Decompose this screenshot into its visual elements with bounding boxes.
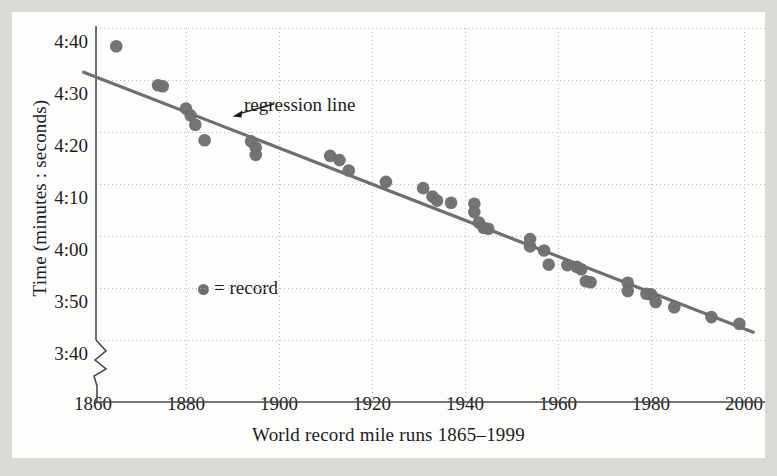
axis-lines <box>94 26 765 402</box>
figure-background: Time (minutes : seconds) World record mi… <box>0 0 777 476</box>
plot-area <box>12 12 765 458</box>
gridlines <box>96 28 765 402</box>
data-points <box>110 40 746 330</box>
annotation-arrow <box>233 104 274 117</box>
chart-canvas: Time (minutes : seconds) World record mi… <box>12 12 765 458</box>
